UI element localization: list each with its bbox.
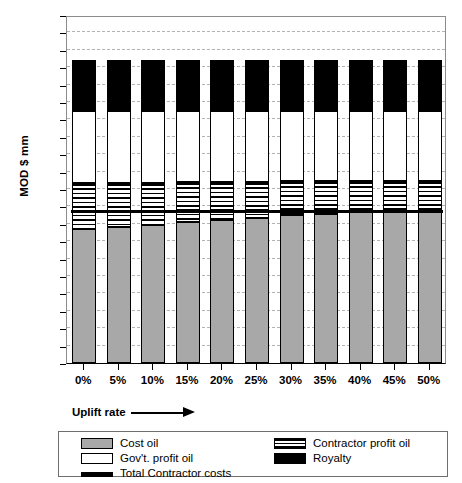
plot-area [66,16,446,364]
x-axis-tick-mark [152,364,153,370]
bar-segment-cost-oil [418,209,442,364]
legend-label-total-contractor-costs: Total Contractor costs [120,467,231,479]
gridline [67,49,445,50]
bar-segment-royalty [349,60,373,111]
x-axis-tick-mark [325,364,326,370]
bar-segment-contractor-profit-oil [383,181,407,211]
bar-segment-royalty [176,60,200,111]
bar-segment-cost-oil [383,211,407,363]
bar-segment-royalty [245,60,269,111]
bar-segment-contractor-profit-oil [418,181,442,209]
reference-line-segment [417,210,443,213]
legend-item-royalty: Royalty [274,452,447,464]
legend-label-cost-oil: Cost oil [120,437,158,449]
bar-segment-cost-oil [245,218,269,363]
bar-segment-cost-oil [210,220,234,363]
reference-line-segment [140,210,166,213]
x-axis-tick-mark [256,364,257,370]
reference-line-segment [382,210,408,213]
bar-segment-govt-profit-oil [349,111,373,181]
chart-container: MOD $ mm 0255075100125150175200225250275… [0,0,462,483]
x-axis-tick-mark [118,364,119,370]
x-axis-tick-mark [429,364,430,370]
reference-line-segment [279,210,305,213]
bar-segment-royalty [314,60,338,111]
legend-swatch-govt-profit-oil [81,453,113,464]
legend-item-cost-oil: Cost oil [59,437,274,449]
bar-segment-govt-profit-oil [141,111,165,183]
bar-segment-govt-profit-oil [107,111,131,183]
bar-segment-cost-oil [176,222,200,363]
x-axis-tick-mark [360,364,361,370]
legend-item-govt-profit-oil: Gov't. profit oil [59,452,274,464]
bar-segment-contractor-profit-oil [141,183,165,225]
bar-segment-govt-profit-oil [418,111,442,181]
reference-line-segment [244,210,270,213]
x-axis-title-label: Uplift rate [72,406,126,418]
bar-segment-govt-profit-oil [280,111,304,181]
legend-item-contractor-profit-oil: Contractor profit oil [274,437,447,449]
bar-segment-royalty [141,60,165,111]
bar-segment-royalty [280,60,304,111]
legend-swatch-total-contractor-costs [81,472,113,477]
bar-segment-govt-profit-oil [245,111,269,182]
bar-segment-govt-profit-oil [176,111,200,182]
reference-line-segment [106,210,132,213]
bar-segment-royalty [418,60,442,111]
x-axis-tick-mark [83,364,84,370]
bar-segment-govt-profit-oil [72,111,96,183]
bar-segment-royalty [107,60,131,111]
bar-segment-royalty [72,60,96,111]
bar-segment-royalty [210,60,234,111]
legend-label-contractor-profit-oil: Contractor profit oil [313,437,410,449]
bar-segment-contractor-profit-oil [72,183,96,228]
legend-item-total-contractor-costs: Total Contractor costs [59,467,274,479]
x-axis-title: Uplift rate [72,406,197,418]
reference-line-segment [348,210,374,213]
bar-segment-govt-profit-oil [383,111,407,181]
bar-segment-govt-profit-oil [210,111,234,182]
legend-swatch-contractor-profit-oil [274,438,306,449]
legend-swatch-royalty [274,453,306,464]
y-axis-title: MOD $ mm [18,106,30,226]
bar-segment-contractor-profit-oil [210,182,234,220]
bar-segment-cost-oil [72,229,96,363]
bar-segment-cost-oil [280,215,304,363]
bar-segment-royalty [383,60,407,111]
reference-line-segment [175,210,201,213]
y-axis-tick-mark [60,364,66,365]
x-axis-tick-mark [394,364,395,370]
gridline [67,31,445,32]
bar-segment-cost-oil [314,214,338,363]
bar-segment-cost-oil [349,212,373,363]
bar-segment-contractor-profit-oil [349,181,373,212]
bar-segment-cost-oil [107,227,131,363]
bar-segment-contractor-profit-oil [107,183,131,226]
bar-segment-cost-oil [141,225,165,364]
legend-label-royalty: Royalty [313,452,351,464]
legend-label-govt-profit-oil: Gov't. profit oil [120,452,193,464]
reference-line-segment [71,210,97,213]
arrow-right-icon [131,407,197,418]
x-axis-tick-label: 50% [406,374,452,386]
bar-segment-contractor-profit-oil [176,182,200,222]
legend-row: Cost oil Contractor profit oil [59,436,447,450]
x-axis-tick-mark [187,364,188,370]
legend-row: Total Contractor costs [59,466,447,480]
reference-line-segment [313,210,339,213]
x-axis-tick-mark [221,364,222,370]
legend-row: Gov't. profit oil Royalty [59,451,447,465]
legend-swatch-cost-oil [81,438,113,449]
chart-legend: Cost oil Contractor profit oil Gov't. pr… [58,431,448,477]
x-axis-tick-mark [291,364,292,370]
reference-line-segment [209,210,235,213]
bar-segment-govt-profit-oil [314,111,338,181]
